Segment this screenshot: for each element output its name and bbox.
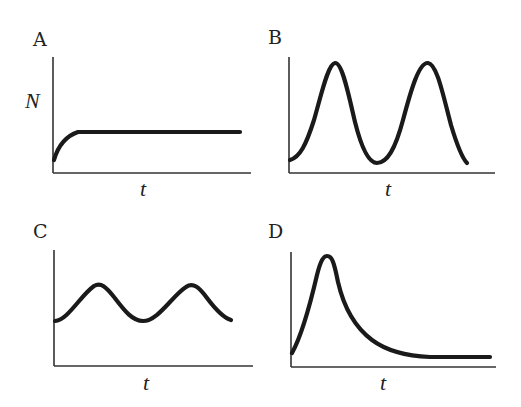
curve-d <box>292 256 490 357</box>
x-axis-label-b: t <box>385 176 392 201</box>
curve-b <box>290 63 467 163</box>
panel-label-d: D <box>268 220 283 242</box>
panel-b: B t <box>268 26 495 201</box>
panel-c: C t <box>33 220 253 395</box>
population-dynamics-figure: A N t B t C t D t <box>0 0 521 407</box>
curve-c <box>55 285 231 321</box>
x-axis-label-a: t <box>140 176 147 201</box>
panel-label-a: A <box>32 28 47 50</box>
x-axis-label-d: t <box>380 370 387 395</box>
panel-label-c: C <box>33 220 48 242</box>
x-axis-label-c: t <box>143 370 150 395</box>
curve-a <box>54 132 240 160</box>
panel-label-b: B <box>268 26 282 48</box>
panel-d: D t <box>268 220 496 395</box>
panel-a: A N t <box>24 28 251 201</box>
y-axis-label-a: N <box>24 88 41 113</box>
